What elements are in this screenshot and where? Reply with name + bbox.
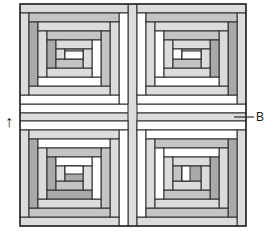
block-top-left-ring4-bottom — [56, 59, 83, 68]
block-top-left-ring4-left — [56, 49, 65, 59]
block-bottom-right-ring0-bottom — [137, 217, 237, 226]
block-top-right-ring1-left — [146, 22, 155, 86]
block-bottom-right-ring0-left — [137, 130, 146, 217]
block-bottom-right-ring4-left — [173, 166, 182, 181]
block-top-left-ring0-bottom — [20, 95, 119, 104]
block-bottom-left-ring1-left — [29, 139, 38, 208]
block-bottom-left-ring3-right — [92, 157, 101, 199]
block-top-left-ring3-top — [47, 31, 101, 40]
block-bottom-left-ring3-top — [47, 148, 101, 157]
block-top-right-ring4-right — [201, 49, 210, 68]
block-top-left-ring4-top — [56, 40, 92, 49]
block-top-right-ring4-top — [173, 40, 210, 49]
block-top-right-ring1-bottom — [146, 86, 228, 95]
block-top-right-ring4-bottom — [173, 59, 201, 68]
block-bottom-left-ring0-bottom — [20, 217, 119, 226]
block-bottom-right-ring4-right — [201, 166, 210, 190]
block-bottom-left-ring4-bottom — [56, 181, 83, 190]
block-top-left-ring1-left — [29, 22, 38, 86]
block-top-right-ring2-left — [155, 31, 164, 77]
block-bottom-left-ring2-left — [38, 148, 47, 199]
block-bottom-right-center-strip — [182, 166, 190, 181]
block-bottom-left-ring3-bottom — [47, 190, 92, 199]
block-top-right-ring1-top — [146, 13, 237, 22]
block-top-left-ring1-right — [110, 22, 119, 95]
block-top-right-center-strip — [182, 51, 201, 59]
block-top-right-ring3-left — [164, 40, 173, 68]
block-bottom-right-ring0-right — [237, 130, 246, 226]
block-bottom-left-ring2-right — [101, 148, 110, 208]
block-top-right-ring2-right — [219, 31, 228, 86]
block-top-left-ring2-bottom — [38, 77, 101, 86]
sashing-vertical — [128, 4, 137, 226]
block-bottom-right-ring3-left — [164, 157, 173, 190]
log-cabin-quilt-diagram — [0, 0, 266, 237]
block-top-left-ring3-left — [47, 40, 56, 68]
block-bottom-right-ring0-top — [137, 121, 246, 130]
block-bottom-left-ring1-right — [110, 139, 119, 217]
block-bottom-left-ring3-left — [47, 157, 56, 190]
block-bottom-left-ring0-right — [119, 130, 128, 226]
block-bottom-left-ring4-left — [56, 166, 65, 181]
block-bottom-right-ring1-right — [228, 139, 237, 217]
block-top-left-ring3-bottom — [47, 68, 92, 77]
block-bottom-left-ring1-top — [29, 130, 119, 139]
block-bottom-right-ring2-top — [155, 139, 228, 148]
block-top-right-ring4-left — [173, 49, 182, 59]
block-top-left-ring3-right — [92, 40, 101, 77]
block-top-left-ring0-left — [20, 13, 29, 95]
block-bottom-right-ring3-bottom — [164, 190, 210, 199]
block-top-right-ring0-bottom — [137, 95, 237, 104]
block-top-left-ring1-top — [29, 13, 119, 22]
block-top-right-ring3-bottom — [164, 68, 210, 77]
block-top-right-ring2-top — [155, 22, 228, 31]
block-bottom-left-ring1-bottom — [29, 208, 110, 217]
block-bottom-left-ring0-top — [20, 121, 128, 130]
up-arrow-icon: ↑ — [5, 113, 13, 131]
block-bottom-right-ring3-right — [210, 157, 219, 199]
block-top-right-ring0-left — [137, 13, 146, 95]
block-top-left-ring2-right — [101, 31, 110, 86]
block-top-right-ring0-top — [137, 4, 246, 13]
block-top-left-ring0-right — [119, 13, 128, 104]
block-bottom-left-ring4-top — [56, 157, 92, 166]
block-bottom-right-ring1-bottom — [146, 208, 228, 217]
block-bottom-right-ring4-bottom — [173, 181, 201, 190]
block-top-left-ring2-top — [38, 22, 110, 31]
block-bottom-left-center-strip — [65, 166, 83, 174]
block-bottom-right-ring1-left — [146, 139, 155, 208]
block-bottom-left-ring4-right — [83, 166, 92, 190]
block-bottom-right-ring4-top — [173, 157, 210, 166]
block-bottom-right-ring2-left — [155, 148, 164, 199]
block-top-right-ring0-right — [237, 13, 246, 104]
block-bottom-right-ring3-top — [164, 148, 219, 157]
block-top-left-ring4-right — [83, 49, 92, 68]
block-bottom-left-ring0-left — [20, 130, 29, 217]
block-top-right-ring3-top — [164, 31, 219, 40]
block-top-left-ring2-left — [38, 31, 47, 77]
block-top-right-ring1-right — [228, 22, 237, 95]
block-top-left-ring1-bottom — [29, 86, 110, 95]
block-bottom-right-ring2-bottom — [155, 199, 219, 208]
block-top-left-ring0-top — [20, 4, 128, 13]
block-top-right-ring3-right — [210, 40, 219, 77]
label-b: B — [256, 110, 264, 124]
block-bottom-left-ring2-top — [38, 139, 110, 148]
block-bottom-right-ring2-right — [219, 148, 228, 208]
block-bottom-left-ring2-bottom — [38, 199, 101, 208]
block-bottom-right-ring1-top — [146, 130, 237, 139]
block-top-left-center-strip — [65, 51, 83, 59]
block-top-right-ring2-bottom — [155, 77, 219, 86]
